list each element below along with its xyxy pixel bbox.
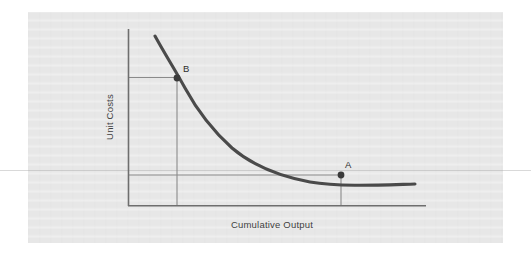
point-marker-b[interactable]	[174, 75, 181, 82]
figure-root: B A Unit Costs Cumulative Output	[0, 0, 531, 256]
chart-axes	[128, 29, 426, 206]
experience-curve-path	[155, 36, 415, 185]
guide-lines	[128, 78, 341, 207]
y-axis-title: Unit Costs	[104, 94, 115, 140]
point-label-a: A	[345, 159, 352, 170]
point-label-b: B	[183, 63, 189, 74]
data-point-a[interactable]: A	[338, 159, 352, 178]
x-axis-title: Cumulative Output	[231, 219, 313, 230]
experience-curve-chart: B A Unit Costs Cumulative Output	[0, 0, 531, 256]
point-marker-a[interactable]	[338, 172, 345, 179]
